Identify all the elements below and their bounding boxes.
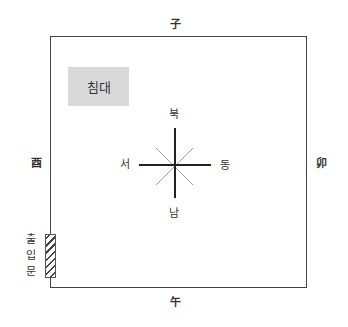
entrance-door xyxy=(45,234,56,278)
compass-east-label: 동 xyxy=(218,159,229,170)
compass-north-label: 북 xyxy=(169,109,179,120)
door-label-char: 입 xyxy=(25,248,37,264)
compass-west-label: 서 xyxy=(120,159,130,170)
door-label: 출 입 문 xyxy=(25,232,37,280)
door-label-char: 출 xyxy=(25,232,37,248)
compass-south-label: 남 xyxy=(169,208,179,219)
door-label-char: 문 xyxy=(25,264,37,280)
